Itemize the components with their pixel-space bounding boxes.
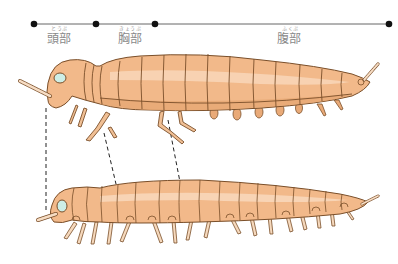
segment-diagram: とうぶ 頭部 きょうぶ 胸部 ふくぶ 腹部 xyxy=(0,0,398,264)
segment-ruler xyxy=(31,21,393,28)
lower-arthropod xyxy=(38,180,378,244)
upper-arthropod xyxy=(20,54,378,144)
arthropod-illustration xyxy=(0,0,398,264)
